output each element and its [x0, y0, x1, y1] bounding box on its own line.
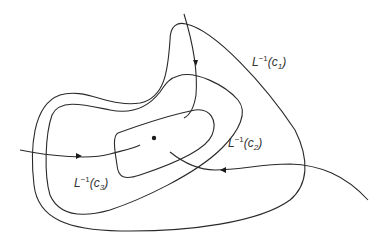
arrow-left — [76, 153, 82, 159]
label-c2: L−1(c2) — [228, 135, 262, 152]
level-curve-c2 — [46, 75, 242, 215]
trajectory-right — [170, 152, 368, 200]
label-c3: L−1(c3) — [74, 175, 108, 192]
level-set-diagram — [0, 0, 389, 244]
arrow-right — [220, 167, 226, 173]
label-c1: L−1(c1) — [252, 54, 286, 71]
trajectory-top — [184, 14, 196, 118]
equilibrium-point — [152, 136, 156, 140]
